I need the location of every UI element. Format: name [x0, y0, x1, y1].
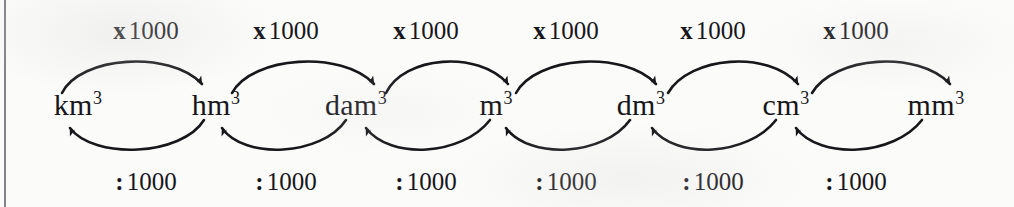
- unit-base: mm: [908, 88, 955, 121]
- divide-symbol: :: [535, 168, 543, 195]
- unit-exponent: 3: [503, 88, 512, 108]
- multiply-label-4: x1000: [533, 18, 599, 43]
- unit-label-km3: km3: [54, 90, 102, 120]
- arrow-divide-hm-km: [70, 120, 204, 150]
- arrow-divide-cm-dm: [652, 120, 776, 150]
- multiply-value: 1000: [696, 17, 746, 44]
- multiply-value: 1000: [409, 17, 459, 44]
- multiply-label-1: x1000: [113, 18, 179, 43]
- multiply-symbol: x: [253, 17, 266, 44]
- multiply-label-5: x1000: [680, 18, 746, 43]
- unit-exponent: 3: [656, 88, 665, 108]
- divide-label-1: :1000: [115, 169, 176, 194]
- divide-label-5: :1000: [682, 169, 743, 194]
- unit-exponent: 3: [955, 88, 964, 108]
- divide-label-2: :1000: [255, 169, 316, 194]
- multiply-label-6: x1000: [823, 18, 889, 43]
- divide-label-4: :1000: [535, 169, 596, 194]
- unit-label-dm3: dm3: [617, 90, 665, 120]
- arrow-divide-dm-m: [506, 120, 630, 150]
- unit-label-hm3: hm3: [192, 90, 240, 120]
- divide-value: 1000: [547, 168, 597, 195]
- unit-base: hm: [192, 88, 231, 121]
- unit-label-dam3: dam3: [325, 90, 387, 120]
- divide-label-6: :1000: [825, 169, 886, 194]
- divide-value: 1000: [407, 168, 457, 195]
- multiply-label-3: x1000: [393, 18, 459, 43]
- unit-exponent: 3: [93, 88, 102, 108]
- unit-base: dam: [325, 88, 377, 121]
- divide-symbol: :: [825, 168, 833, 195]
- unit-label-cm3: cm3: [763, 90, 810, 120]
- multiply-symbol: x: [113, 17, 126, 44]
- divide-symbol: :: [682, 168, 690, 195]
- divide-value: 1000: [267, 168, 317, 195]
- multiply-value: 1000: [269, 17, 319, 44]
- unit-exponent: 3: [800, 88, 809, 108]
- divide-symbol: :: [115, 168, 123, 195]
- unit-exponent: 3: [231, 88, 240, 108]
- unit-base: m: [479, 88, 503, 121]
- divide-symbol: :: [255, 168, 263, 195]
- arrow-divide-dam-hm: [222, 120, 346, 150]
- unit-label-mm3: mm3: [908, 90, 965, 120]
- divide-symbol: :: [395, 168, 403, 195]
- unit-base: km: [54, 88, 93, 121]
- multiply-symbol: x: [680, 17, 693, 44]
- multiply-symbol: x: [393, 17, 406, 44]
- unit-base: dm: [617, 88, 656, 121]
- multiply-value: 1000: [549, 17, 599, 44]
- multiply-symbol: x: [823, 17, 836, 44]
- unit-base: cm: [763, 88, 800, 121]
- divide-label-3: :1000: [395, 169, 456, 194]
- unit-label-m3: m3: [479, 90, 512, 120]
- divide-value: 1000: [837, 168, 887, 195]
- multiply-label-2: x1000: [253, 18, 319, 43]
- multiply-value: 1000: [839, 17, 889, 44]
- multiply-value: 1000: [129, 17, 179, 44]
- arrow-divide-mm-cm: [796, 120, 922, 150]
- divide-value: 1000: [127, 168, 177, 195]
- arrow-divide-m-dam: [366, 120, 490, 150]
- divide-value: 1000: [694, 168, 744, 195]
- unit-exponent: 3: [378, 88, 387, 108]
- conversion-diagram: km3 hm3 dam3 m3 dm3 cm3 mm3 x1000 x1000 …: [0, 0, 1014, 207]
- multiply-symbol: x: [533, 17, 546, 44]
